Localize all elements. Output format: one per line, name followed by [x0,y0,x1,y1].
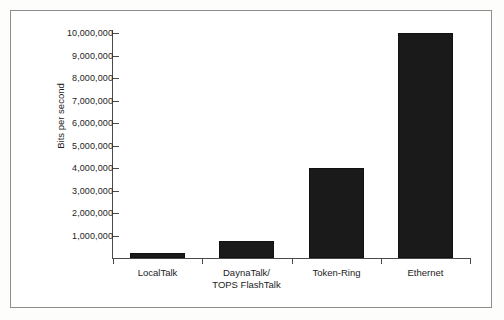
x-axis-label-line: LocalTalk [113,267,202,279]
y-axis-tick-row: 3,000,000 [33,187,113,196]
x-axis-label-line: Token-Ring [292,267,381,279]
y-axis-tick-label: 9,000,000 [41,52,113,61]
figure: Bits per second 1,000,0002,000,0003,000,… [0,0,504,320]
y-axis-tick-label: 2,000,000 [41,209,113,218]
y-axis-tick-row: 6,000,000 [33,119,113,128]
x-axis-label-line: DaynaTalk/ [202,267,291,279]
x-axis-label: Ethernet [381,267,470,279]
y-axis-tick [113,56,119,57]
x-axis-label: Token-Ring [292,267,381,279]
y-axis-tick-row: 7,000,000 [33,97,113,106]
x-axis-tick [292,258,293,264]
y-axis-tick-label: 5,000,000 [41,142,113,151]
y-axis-tick-label: 10,000,000 [41,29,113,38]
y-axis-tick-label: 8,000,000 [41,74,113,83]
y-axis-tick [113,33,119,34]
y-axis-tick [113,146,119,147]
x-axis-tick [470,258,471,264]
x-axis-label: LocalTalk [113,267,202,279]
y-axis-tick [113,168,119,169]
x-axis-tick [113,258,114,264]
x-axis-label-line: Ethernet [381,267,470,279]
y-axis-tick-row: 10,000,000 [33,29,113,38]
bar [309,168,364,258]
y-axis-tick-label: 1,000,000 [41,232,113,241]
y-axis-tick [113,78,119,79]
x-axis-line [112,258,470,259]
y-axis-tick-label: 3,000,000 [41,187,113,196]
bar [130,253,185,258]
y-axis-tick [113,191,119,192]
y-axis-tick [113,213,119,214]
y-axis-tick [113,123,119,124]
x-axis-tick [381,258,382,264]
y-axis-tick-row: 9,000,000 [33,52,113,61]
y-axis-tick-row: 5,000,000 [33,142,113,151]
y-axis-tick-label: 7,000,000 [41,97,113,106]
x-axis-label-line: TOPS FlashTalk [202,279,291,291]
bar [219,241,274,258]
y-axis-tick [113,236,119,237]
y-axis-tick-label: 6,000,000 [41,119,113,128]
y-axis-tick-row: 1,000,000 [33,232,113,241]
x-axis-tick [202,258,203,264]
bar [398,33,453,258]
y-axis-tick-label: 4,000,000 [41,164,113,173]
y-axis-tick [113,101,119,102]
y-axis-tick-row: 4,000,000 [33,164,113,173]
x-axis-label: DaynaTalk/TOPS FlashTalk [202,267,291,291]
y-axis-tick-row: 8,000,000 [33,74,113,83]
y-axis-tick-row: 2,000,000 [33,209,113,218]
bar-chart-plot: Bits per second 1,000,0002,000,0003,000,… [0,0,504,320]
